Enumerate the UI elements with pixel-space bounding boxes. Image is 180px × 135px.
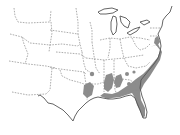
range-region [83,36,162,118]
great-lakes [98,8,150,35]
range-map [0,0,180,135]
coastline [38,6,172,121]
